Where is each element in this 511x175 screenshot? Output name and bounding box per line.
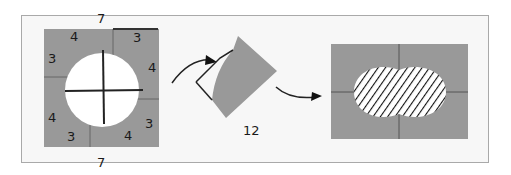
piece-label: 3	[133, 30, 141, 45]
middle-piece-figure: 12	[172, 36, 322, 138]
label-top-7: 7	[97, 11, 105, 26]
left-square-figure: 7 7 4 3 3 4 4 3 3 4	[44, 11, 159, 170]
piece-label: 3	[48, 51, 56, 66]
piece-label: 4	[124, 128, 132, 143]
label-bottom-7: 7	[97, 155, 105, 170]
piece-label: 3	[67, 129, 75, 144]
diagram-canvas: 7 7 4 3 3 4 4 3 3 4 12	[0, 0, 511, 175]
hatched-oval	[354, 67, 446, 117]
piece-label-12: 12	[243, 123, 260, 138]
piece-label: 4	[70, 29, 78, 44]
right-rectangle-figure	[331, 44, 468, 139]
curved-arrow-2	[276, 87, 316, 98]
piece-label: 3	[145, 116, 153, 131]
piece-label: 4	[148, 60, 156, 75]
arrow-head-icon	[311, 92, 322, 101]
piece-label: 4	[48, 110, 56, 125]
